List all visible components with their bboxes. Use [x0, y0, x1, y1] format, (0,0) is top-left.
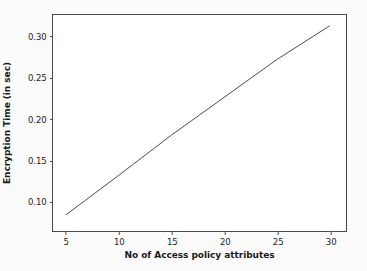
y-axis-tick-mark	[50, 78, 54, 79]
y-axis-tick-mark	[50, 202, 54, 203]
y-axis-tick: 0.25	[28, 73, 53, 83]
y-axis-tick-label: 0.30	[28, 32, 50, 42]
y-axis-tick: 0.10	[28, 197, 53, 207]
x-axis-tick-label: 10	[114, 235, 125, 247]
y-axis-tick: 0.30	[28, 32, 53, 42]
x-axis-tick: 20	[220, 231, 231, 247]
x-axis-tick: 15	[167, 231, 178, 247]
chart-figure: Encryption Time (in sec) 0.100.150.200.2…	[0, 0, 367, 271]
y-axis-tick-mark	[50, 161, 54, 162]
y-axis-tick-label: 0.15	[28, 156, 50, 166]
y-axis-tick-label: 0.25	[28, 73, 50, 83]
y-axis-tick-label: 0.20	[28, 115, 50, 125]
data-line	[66, 26, 329, 215]
y-axis-label-text: Encryption Time (in sec)	[2, 62, 12, 184]
x-axis-tick: 30	[326, 231, 337, 247]
x-axis-tick-label: 20	[220, 235, 231, 247]
x-axis-tick-label: 30	[326, 235, 337, 247]
y-axis-tick-mark	[50, 36, 54, 37]
x-axis-tick-label: 5	[64, 235, 69, 247]
y-axis-tick: 0.20	[28, 115, 53, 125]
plot-area: 0.100.150.200.250.3051015202530	[52, 14, 347, 232]
y-axis-tick-label: 0.10	[28, 197, 50, 207]
x-axis-tick: 25	[273, 231, 284, 247]
line-series-svg	[53, 15, 346, 231]
y-axis-tick: 0.15	[28, 156, 53, 166]
y-axis-tick-mark	[50, 119, 54, 120]
x-axis-tick: 10	[114, 231, 125, 247]
x-axis-tick-label: 15	[167, 235, 178, 247]
y-axis-label: Encryption Time (in sec)	[0, 14, 14, 232]
x-axis-label: No of Access policy attributes	[52, 250, 347, 260]
x-axis-tick-label: 25	[273, 235, 284, 247]
x-axis-tick: 5	[64, 231, 69, 247]
